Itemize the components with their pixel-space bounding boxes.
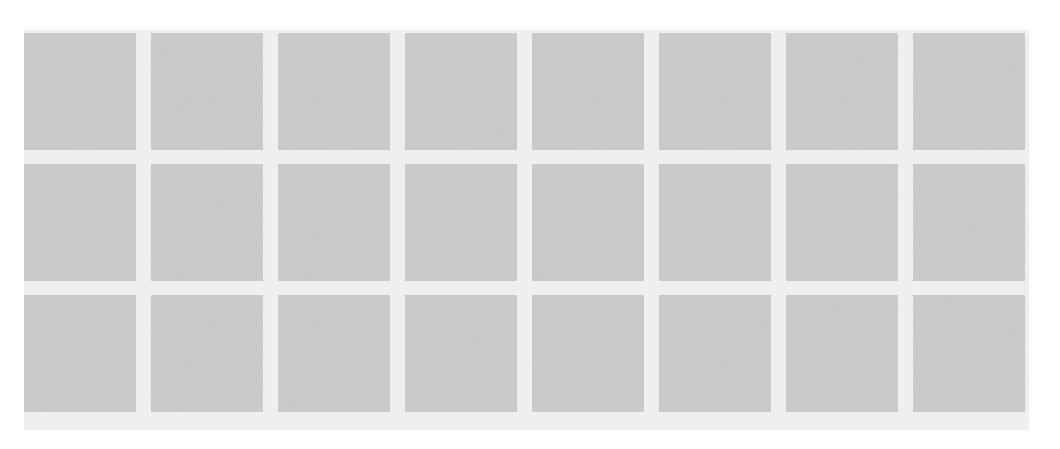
noise-swatch-tile xyxy=(24,295,136,412)
noise-swatch-tile xyxy=(659,33,771,150)
noise-swatch-tile xyxy=(405,33,517,150)
swatch-grid xyxy=(24,33,1025,412)
noise-swatch-tile xyxy=(151,33,263,150)
noise-swatch-tile xyxy=(659,295,771,412)
noise-swatch-tile xyxy=(405,164,517,281)
noise-swatch-tile xyxy=(913,295,1025,412)
noise-swatch-tile xyxy=(786,33,898,150)
noise-swatch-tile xyxy=(278,33,390,150)
noise-swatch-tile xyxy=(913,33,1025,150)
noise-swatch-tile xyxy=(913,164,1025,281)
noise-swatch-tile xyxy=(24,33,136,150)
noise-swatch-tile xyxy=(532,164,644,281)
noise-swatch-tile xyxy=(278,164,390,281)
noise-swatch-tile xyxy=(786,164,898,281)
noise-swatch-tile xyxy=(151,164,263,281)
noise-swatch-tile xyxy=(786,295,898,412)
noise-swatch-tile xyxy=(151,295,263,412)
noise-swatch-tile xyxy=(532,33,644,150)
noise-swatch-tile xyxy=(24,164,136,281)
noise-swatch-tile xyxy=(278,295,390,412)
noise-swatch-tile xyxy=(405,295,517,412)
noise-swatch-tile xyxy=(532,295,644,412)
noise-swatch-tile xyxy=(659,164,771,281)
